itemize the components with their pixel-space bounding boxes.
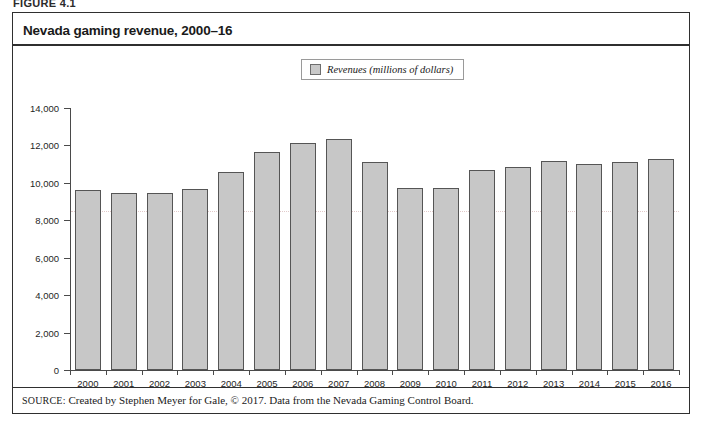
x-axis-tick — [177, 370, 178, 375]
source-note: SOURCE: Created by Stephen Meyer for Gal… — [22, 394, 474, 406]
x-axis-tick — [464, 370, 465, 375]
y-axis-tick — [64, 220, 71, 221]
bar-2003 — [182, 189, 208, 370]
y-axis-tick-label: 12,000 — [13, 140, 59, 151]
x-axis-tick — [249, 370, 250, 375]
bar-2008 — [362, 162, 388, 370]
bar-2006 — [290, 143, 316, 370]
x-axis-tick — [106, 370, 107, 375]
y-axis-tick-label: 10,000 — [13, 177, 59, 188]
y-axis-tick-label: 2,000 — [13, 327, 59, 338]
y-axis-tick-label: 4,000 — [13, 290, 59, 301]
y-axis-tick — [64, 258, 71, 259]
bar-2000 — [75, 190, 101, 370]
x-axis-tick — [607, 370, 608, 375]
x-axis-tick — [392, 370, 393, 375]
x-axis-tick — [357, 370, 358, 375]
x-axis-tick — [536, 370, 537, 375]
y-axis-tick — [64, 333, 71, 334]
y-axis-tick-label: 0 — [13, 365, 59, 376]
y-axis-tick — [64, 108, 71, 109]
bar-2001 — [111, 193, 137, 370]
bar-2014 — [576, 164, 602, 370]
x-axis-tick — [428, 370, 429, 375]
x-axis-tick — [285, 370, 286, 375]
x-axis-tick — [500, 370, 501, 375]
bar-2013 — [541, 161, 567, 370]
bar-2009 — [397, 188, 423, 370]
y-axis — [70, 108, 71, 370]
bar-2015 — [612, 162, 638, 370]
y-axis-tick — [64, 145, 71, 146]
y-axis-tick — [64, 295, 71, 296]
figure-frame: Nevada gaming revenue, 2000–16 Revenues … — [12, 12, 690, 414]
y-axis-tick-label: 6,000 — [13, 252, 59, 263]
bar-2002 — [147, 193, 173, 370]
source-text: Created by Stephen Meyer for Gale, © 201… — [68, 394, 473, 406]
source-divider — [13, 387, 689, 389]
bar-2004 — [218, 172, 244, 370]
x-axis-tick — [142, 370, 143, 375]
bar-2010 — [433, 188, 459, 370]
x-axis-tick — [643, 370, 644, 375]
bar-2011 — [469, 170, 495, 370]
x-axis-tick — [572, 370, 573, 375]
x-axis — [70, 370, 679, 371]
x-axis-tick — [70, 370, 71, 375]
plot-area: 02,0004,0006,0008,00010,00012,00014,0002… — [13, 13, 689, 413]
figure-label: FIGURE 4.1 — [13, 0, 76, 9]
bar-2016 — [648, 159, 674, 370]
y-axis-tick — [64, 183, 71, 184]
bar-2012 — [505, 167, 531, 370]
figure-root: FIGURE 4.1 Nevada gaming revenue, 2000–1… — [0, 0, 703, 430]
source-kicker: SOURCE: — [22, 395, 66, 406]
bar-2007 — [326, 139, 352, 370]
x-axis-tick — [679, 370, 680, 375]
bar-2005 — [254, 152, 280, 370]
x-axis-tick — [321, 370, 322, 375]
y-axis-tick-label: 14,000 — [13, 103, 59, 114]
y-axis-tick-label: 8,000 — [13, 215, 59, 226]
x-axis-tick — [213, 370, 214, 375]
